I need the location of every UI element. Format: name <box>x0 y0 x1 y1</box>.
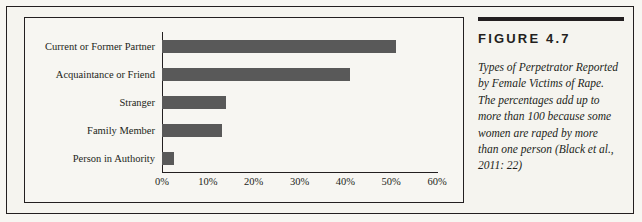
x-tick-label: 40% <box>336 176 355 187</box>
bar-row: Family Member <box>162 116 437 144</box>
bar-category-label: Person in Authority <box>73 152 155 165</box>
bar-series: Current or Former Partner Acquaintance o… <box>162 32 437 172</box>
bar-value <box>162 124 222 137</box>
bar-row: Person in Authority <box>162 144 437 172</box>
plot-area: Current or Former Partner Acquaintance o… <box>162 32 437 172</box>
bar-row: Current or Former Partner <box>162 32 437 60</box>
x-tick-label: 10% <box>198 176 217 187</box>
x-tick-label: 30% <box>290 176 309 187</box>
bar-category-label: Stranger <box>119 96 155 109</box>
bar-value <box>162 40 396 53</box>
x-tick-label: 60% <box>427 176 446 187</box>
bar-row: Acquaintance or Friend <box>162 60 437 88</box>
x-axis-line <box>162 172 438 173</box>
bar-value <box>162 152 174 165</box>
bar-category-label: Acquaintance or Friend <box>56 68 155 81</box>
chart-panel: Current or Former Partner Acquaintance o… <box>24 17 464 203</box>
figure-number: FIGURE 4.7 <box>478 31 571 46</box>
x-tick-label: 0% <box>155 176 169 187</box>
figure-page: Current or Former Partner Acquaintance o… <box>0 0 642 222</box>
bar-category-label: Current or Former Partner <box>45 40 155 53</box>
bar-category-label: Family Member <box>87 124 155 137</box>
x-tick-label: 50% <box>382 176 401 187</box>
x-tick-label: 20% <box>244 176 263 187</box>
figure-caption-block: FIGURE 4.7 Types of Perpetrator Reported… <box>478 17 624 203</box>
figure-caption-text: Types of Perpetrator Reported by Female … <box>478 59 618 174</box>
bar-value <box>162 68 350 81</box>
bar-row: Stranger <box>162 88 437 116</box>
x-axis-tick-labels: 0% 10% 20% 30% 40% 50% 60% <box>162 174 438 190</box>
bar-value <box>162 96 226 109</box>
